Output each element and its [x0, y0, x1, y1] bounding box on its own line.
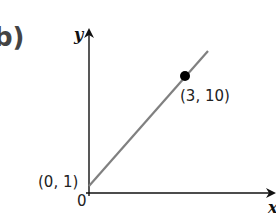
origin-label: 0 — [77, 192, 87, 210]
point-3-10 — [180, 71, 190, 81]
part-label: b) — [0, 22, 25, 52]
graph-line — [89, 51, 208, 186]
point-label-3-10: (3, 10) — [180, 87, 230, 105]
x-axis-label: x — [267, 198, 276, 213]
line-graph: b) y x (3, 10) (0, 1) 0 — [0, 0, 276, 213]
y-axis-label: y — [73, 25, 85, 44]
point-label-0-1: (0, 1) — [38, 173, 78, 191]
